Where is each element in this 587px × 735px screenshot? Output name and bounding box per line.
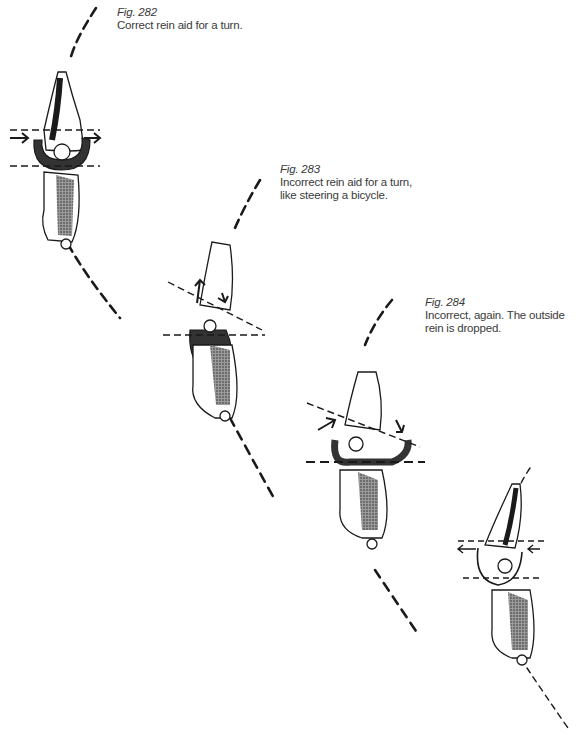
figure-number: Fig. 284 xyxy=(425,296,585,309)
arrow-diagonal-icon xyxy=(318,418,335,430)
caption-text: Correct rein aid for a turn. xyxy=(117,19,267,32)
figure-number: Fig. 283 xyxy=(280,163,430,176)
arrow-right-icon xyxy=(10,133,28,143)
arrow-left-icon xyxy=(458,545,476,553)
caption-text: Incorrect rein aid for a turn, xyxy=(280,176,430,189)
figure-284-horse-rider xyxy=(306,372,425,549)
figure-282-horse-rider xyxy=(10,72,100,249)
arrow-diagonal-icon xyxy=(396,420,404,432)
caption-text: like steering a bicycle. xyxy=(280,189,430,202)
figure-283-horse-rider xyxy=(163,242,265,421)
caption-text: Incorrect, again. The outside xyxy=(425,309,585,322)
figure-283-caption: Fig. 283 Incorrect rein aid for a turn, … xyxy=(280,163,430,202)
arrow-left-icon xyxy=(528,545,540,553)
riding-illustrations xyxy=(0,0,587,735)
figure-number: Fig. 282 xyxy=(117,6,267,19)
caption-text: rein is dropped. xyxy=(425,322,585,335)
book-page: Fig. 282 Correct rein aid for a turn. Fi… xyxy=(0,0,587,735)
figure-4-horse-rider xyxy=(458,484,545,665)
figure-282-caption: Fig. 282 Correct rein aid for a turn. xyxy=(117,6,267,32)
figure-284-caption: Fig. 284 Incorrect, again. The outside r… xyxy=(425,296,585,335)
